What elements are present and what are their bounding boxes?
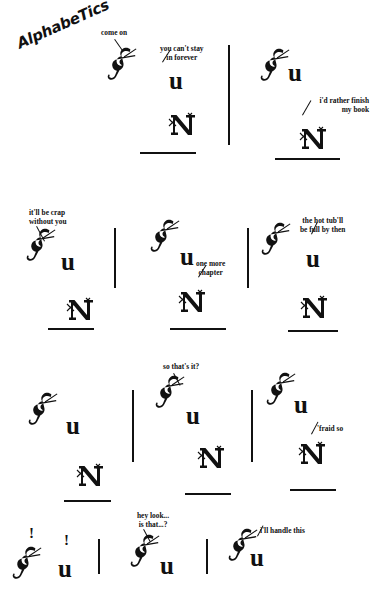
panel-divider — [206, 539, 208, 574]
panel-underline — [170, 328, 226, 330]
panel-divider — [114, 228, 116, 288]
exclamation-icon: ! — [64, 533, 69, 548]
panel-divider — [132, 390, 134, 462]
panel-underline — [290, 489, 336, 491]
letter-f-icon — [257, 220, 295, 256]
speech-handle-this: i'll handle this — [260, 526, 305, 535]
strip-title: AlphabeTics — [14, 0, 112, 52]
letter-n-icon — [76, 459, 106, 489]
speech-rather-finish: i'd rather finish my book — [232, 96, 369, 114]
exclamation-icon: ! — [29, 526, 34, 541]
letter-u-icon: u — [169, 68, 183, 93]
letter-f-icon — [103, 45, 141, 81]
panel-divider — [247, 228, 249, 288]
speech-be-crap: it'll be crap without you — [29, 208, 67, 226]
letter-u-icon: u — [306, 246, 320, 271]
letter-u-icon: u — [61, 249, 75, 274]
letter-f-icon — [24, 390, 62, 426]
letter-u-icon: u — [186, 403, 200, 428]
letter-u-icon: u — [294, 392, 308, 417]
speech-so-thats-it: so that's it? — [163, 362, 199, 371]
letter-f-icon — [22, 226, 60, 262]
panel-divider — [251, 390, 253, 462]
letter-u-icon: u — [66, 413, 80, 438]
panel-underline — [140, 152, 196, 154]
letter-n-icon — [298, 437, 328, 467]
letter-n-icon — [299, 122, 329, 152]
letter-u-icon: u — [250, 545, 264, 570]
letter-u-icon: u — [288, 60, 302, 85]
letter-u-icon: u — [58, 556, 72, 581]
letter-f-icon — [126, 532, 164, 568]
speech-hey-look: hey look... is that...? — [137, 511, 169, 529]
letter-n-icon — [300, 291, 330, 321]
panel-divider — [228, 45, 230, 145]
letter-n-icon — [197, 441, 227, 471]
letter-n-icon — [168, 108, 198, 138]
letter-f-icon — [151, 373, 189, 409]
panel-underline — [48, 328, 94, 330]
panel-underline — [185, 493, 231, 495]
panel-underline — [275, 158, 340, 160]
panel-divider — [98, 539, 100, 574]
speech-hot-tub: the hot tub'll be full by then — [300, 216, 345, 234]
letter-n-icon — [178, 285, 208, 315]
letter-f-icon — [8, 544, 46, 580]
letter-u-icon: u — [160, 553, 174, 578]
speech-fraid-so: 'fraid so — [317, 424, 343, 433]
panel-underline — [64, 500, 111, 502]
letter-f-icon — [146, 217, 184, 253]
letter-n-icon — [66, 293, 96, 323]
comic-strip: AlphabeTics come on you can't stay in fo… — [0, 0, 371, 607]
letter-u-icon: u — [180, 244, 194, 269]
panel-underline — [288, 330, 338, 332]
speech-come-on: come on — [101, 28, 127, 37]
